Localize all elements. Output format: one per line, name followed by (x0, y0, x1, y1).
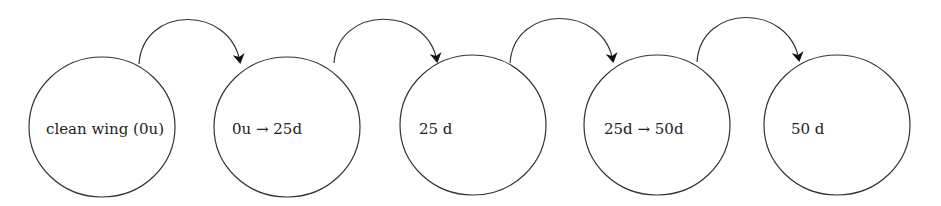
diagram-canvas (0, 0, 941, 206)
state-node-label: 50 d (791, 120, 824, 138)
transition-arrows (139, 17, 799, 64)
transition-arrow (697, 17, 799, 62)
state-node-label: clean wing (0u) (46, 120, 164, 138)
state-diagram: clean wing (0u)0u → 25d25 d25d → 50d50 d (0, 0, 941, 206)
state-node-circle (764, 55, 910, 195)
transition-arrow (334, 19, 437, 63)
state-node-label: 25 d (419, 120, 452, 138)
state-node-label: 0u → 25d (232, 120, 302, 138)
transition-arrow (510, 18, 613, 63)
state-node-label: 25d → 50d (604, 120, 683, 138)
transition-arrow (139, 19, 240, 64)
